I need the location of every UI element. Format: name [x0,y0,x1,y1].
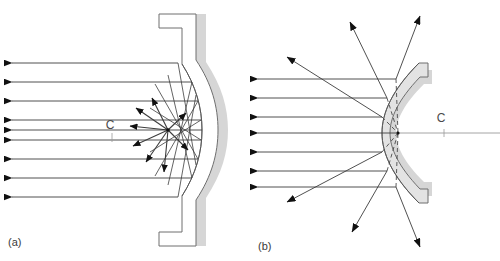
center-of-curvature-label: C [106,118,115,132]
center-of-curvature-label: C [437,111,446,125]
panel-a-caption: (a) [8,236,21,248]
ray-diagram-canvas: C (a) [0,0,500,261]
figure-background [0,0,500,261]
panel-b-caption: (b) [258,240,271,252]
optics-figure: C (a) [0,0,500,261]
panel-b-virtual-focal-point [396,131,399,134]
panel-a-focal-point [166,128,170,132]
